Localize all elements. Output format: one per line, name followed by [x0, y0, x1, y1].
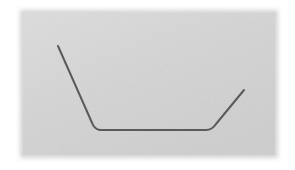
image-canvas: [0, 0, 295, 170]
panel-group: [20, 10, 278, 158]
panel-surface: [23, 13, 275, 155]
line-drawing-figure: [0, 0, 295, 170]
